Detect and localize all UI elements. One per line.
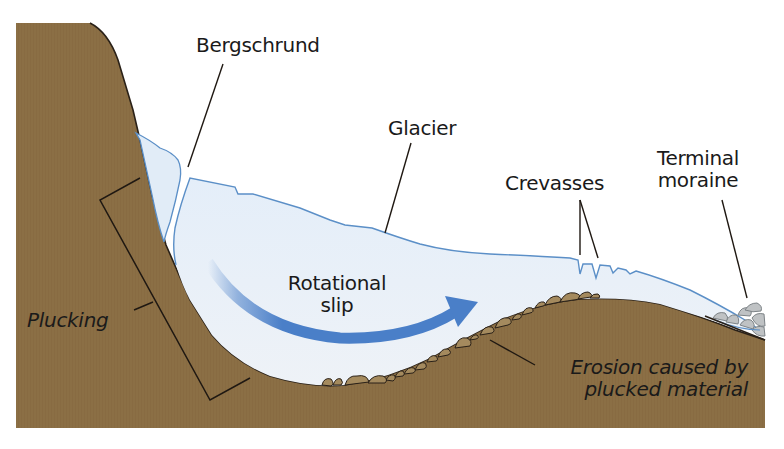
label-terminal-moraine-line1: Terminal	[640, 147, 756, 169]
glacier-leader	[385, 143, 411, 233]
label-rotational-slip-line2: slip	[264, 294, 410, 316]
label-plucking: Plucking	[27, 309, 108, 331]
label-glacier: Glacier	[388, 117, 456, 139]
label-crevasses: Crevasses	[505, 172, 604, 194]
label-erosion-line1: Erosion caused by	[520, 356, 748, 378]
moraine-leader	[722, 200, 747, 298]
label-rotational-slip-line1: Rotational	[264, 272, 410, 294]
label-erosion: Erosion caused by plucked material	[520, 356, 748, 400]
crevasse-leader-2	[580, 200, 598, 258]
label-terminal-moraine: Terminal moraine	[640, 147, 756, 191]
label-erosion-line2: plucked material	[520, 378, 748, 400]
bergschrund-leader	[188, 64, 223, 167]
label-rotational-slip: Rotational slip	[264, 272, 410, 316]
label-bergschrund: Bergschrund	[196, 34, 320, 56]
label-terminal-moraine-line2: moraine	[640, 169, 756, 191]
